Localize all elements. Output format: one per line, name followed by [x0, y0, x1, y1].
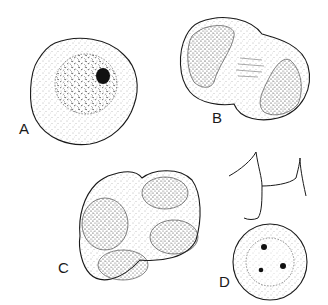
panel-label-d: D	[219, 274, 230, 289]
panel-label-b: B	[212, 110, 222, 125]
cell-a	[30, 38, 137, 144]
chromatin-body	[280, 263, 286, 269]
panel-label-a: A	[19, 121, 29, 136]
nucleolus-a	[96, 68, 110, 84]
chromatin-body	[261, 244, 267, 250]
chromatin-body	[259, 268, 264, 273]
panel-label-c: C	[58, 260, 69, 275]
cell-c	[79, 171, 200, 280]
cell-b	[180, 18, 309, 120]
cell-d	[233, 224, 307, 300]
triradiate-structure	[229, 152, 306, 220]
figure-illustration	[0, 0, 328, 305]
